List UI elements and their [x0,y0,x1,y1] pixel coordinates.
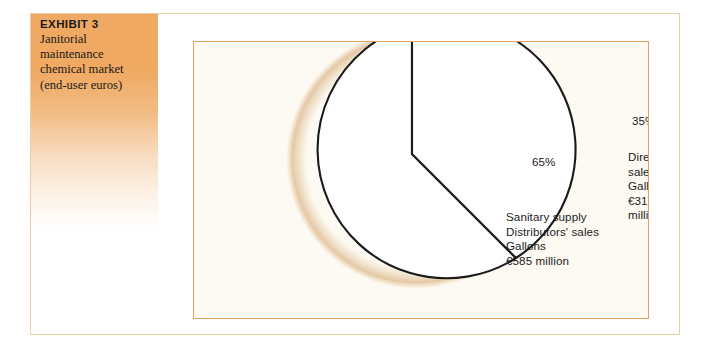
slice-label-direct-sales: Direct sales Gallons €315 million [628,150,649,223]
slice-percent-direct-sales: 35% [632,114,649,129]
exhibit-description: Janitorial maintenance chemical market (… [40,32,158,93]
exhibit-number-label: EXHIBIT 3 [40,17,158,31]
pie-chart: 35% Direct sales Gallons €315 million 65… [194,42,648,318]
slice-label-sanitary-supply: Sanitary supply Distributors' sales Gall… [506,210,599,268]
slice-percent-sanitary-supply: 65% [532,155,556,170]
chart-frame: 35% Direct sales Gallons €315 million 65… [193,41,649,319]
pie-chart-svg [194,42,649,319]
exhibit-page: EXHIBIT 3 Janitorial maintenance chemica… [0,0,705,352]
exhibit-title-block: EXHIBIT 3 Janitorial maintenance chemica… [40,17,158,93]
